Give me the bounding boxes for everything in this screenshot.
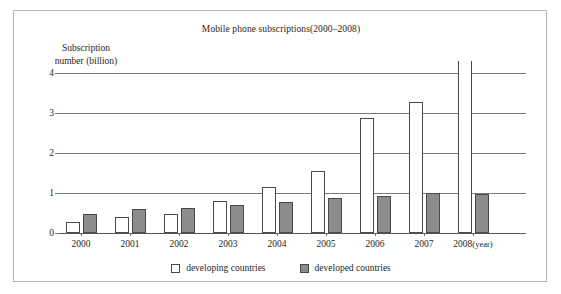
ytick-label-0: 0 xyxy=(49,228,54,238)
xtick-label-2005: 2005 xyxy=(304,239,348,249)
chart-page: Mobile phone subscriptions(2000–2008) Su… xyxy=(0,0,561,294)
xtick-label-2003: 2003 xyxy=(206,239,250,249)
bar-developing-2000 xyxy=(66,222,80,233)
bar-developing-2001 xyxy=(115,217,129,233)
bar-developing-2005 xyxy=(311,171,325,233)
bar-group-2006: 2006 xyxy=(354,73,398,233)
xtickmark-2008 xyxy=(473,233,474,236)
chart-legend: developing countries developed countries xyxy=(14,263,548,273)
bar-group-2007: 2007 xyxy=(403,73,447,233)
bar-developed-2000 xyxy=(83,214,97,233)
bar-developing-2008 xyxy=(458,61,472,233)
bar-groups: 2000 2001 2002 xyxy=(60,73,526,233)
legend-label-developed: developed countries xyxy=(315,263,391,273)
legend-item-developing: developing countries xyxy=(171,263,265,273)
ytick-label-3: 3 xyxy=(49,108,54,118)
y-axis-title-line1: Subscription xyxy=(26,42,146,55)
xtick-label-2008: 2008(year) xyxy=(451,239,495,249)
open-square-icon xyxy=(171,264,180,273)
xtickmark-2002 xyxy=(179,233,180,236)
xtick-label-2004: 2004 xyxy=(255,239,299,249)
ytick-dash-0 xyxy=(55,233,60,234)
xtickmark-2001 xyxy=(130,233,131,236)
xtick-label-2008-year: 2008 xyxy=(453,239,472,249)
xtick-label-2000: 2000 xyxy=(59,239,103,249)
xtickmark-2007 xyxy=(424,233,425,236)
bar-developed-2006 xyxy=(377,196,391,233)
bar-group-2000: 2000 xyxy=(60,73,104,233)
bar-group-2004: 2004 xyxy=(256,73,300,233)
bar-developing-2003 xyxy=(213,201,227,233)
xtick-label-2001: 2001 xyxy=(108,239,152,249)
bar-developed-2001 xyxy=(132,209,146,233)
bar-developing-2004 xyxy=(262,187,276,233)
x-axis-unit-label: (year) xyxy=(472,239,492,249)
y-axis-title-line2: number (billion) xyxy=(26,55,146,68)
y-axis-title: Subscription number (billion) xyxy=(26,42,146,67)
xtick-label-2006: 2006 xyxy=(353,239,397,249)
bar-group-2008: 2008(year) xyxy=(452,73,496,233)
bar-developed-2005 xyxy=(328,198,342,233)
legend-item-developed: developed countries xyxy=(300,263,391,273)
figure-frame: Mobile phone subscriptions(2000–2008) Su… xyxy=(13,10,547,282)
ytick-label-2: 2 xyxy=(49,148,54,158)
bar-developed-2007 xyxy=(426,193,440,233)
bar-group-2002: 2002 xyxy=(158,73,202,233)
xtickmark-2004 xyxy=(277,233,278,236)
ytick-label-4: 4 xyxy=(49,68,54,78)
bar-group-2001: 2001 xyxy=(109,73,153,233)
xtickmark-2006 xyxy=(375,233,376,236)
bar-developing-2006 xyxy=(360,118,374,233)
bar-developing-2002 xyxy=(164,214,178,233)
xtick-label-2007: 2007 xyxy=(402,239,446,249)
bar-developed-2003 xyxy=(230,205,244,233)
bar-developed-2004 xyxy=(279,202,293,233)
xtick-label-2002: 2002 xyxy=(157,239,201,249)
xtickmark-2005 xyxy=(326,233,327,236)
bar-group-2005: 2005 xyxy=(305,73,349,233)
xtickmark-2000 xyxy=(81,233,82,236)
bar-developed-2008 xyxy=(475,194,489,233)
legend-label-developing: developing countries xyxy=(186,263,265,273)
chart-title: Mobile phone subscriptions(2000–2008) xyxy=(14,24,548,34)
plot-area: 4 3 2 1 0 xyxy=(60,73,526,233)
filled-square-icon xyxy=(300,264,309,273)
ytick-label-1: 1 xyxy=(49,188,54,198)
xtickmark-2003 xyxy=(228,233,229,236)
bar-group-2003: 2003 xyxy=(207,73,251,233)
bar-developed-2002 xyxy=(181,208,195,233)
bar-developing-2007 xyxy=(409,102,423,233)
